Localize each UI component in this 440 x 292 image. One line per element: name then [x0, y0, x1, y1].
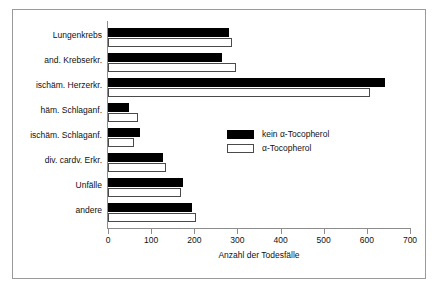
x-tick-600 — [367, 229, 368, 234]
legend-swatch-1 — [227, 144, 254, 153]
bar-4-series-0 — [108, 128, 140, 137]
bar-2-series-0 — [108, 78, 385, 87]
x-tick-300 — [237, 229, 238, 234]
bar-1-series-0 — [108, 53, 222, 62]
x-tick-label-300: 300 — [217, 235, 257, 245]
legend-swatch-0 — [227, 130, 254, 139]
x-axis-line — [107, 228, 411, 229]
x-tick-100 — [151, 229, 152, 234]
bar-1-series-1 — [108, 63, 236, 72]
x-tick-label-400: 400 — [261, 235, 301, 245]
bar-7-series-0 — [108, 203, 192, 212]
bar-2-series-1 — [108, 88, 370, 97]
legend-label-0: kein α-Tocopherol — [262, 129, 329, 139]
category-label-3: häm. Schlaganf. — [18, 105, 102, 115]
category-label-1: and. Krebserkr. — [18, 55, 102, 65]
x-tick-0 — [108, 229, 109, 234]
x-tick-500 — [324, 229, 325, 234]
category-label-4: ischäm. Schlaganf. — [18, 130, 102, 140]
chart-legend: kein α-Tocopherolα-Tocopherol — [227, 128, 347, 156]
x-tick-label-600: 600 — [347, 235, 387, 245]
category-label-0: Lungenkrebs — [18, 30, 102, 40]
category-label-6: Unfälle — [18, 180, 102, 190]
bar-3-series-0 — [108, 103, 129, 112]
bar-0-series-1 — [108, 38, 232, 47]
bar-7-series-1 — [108, 213, 196, 222]
x-tick-700 — [410, 229, 411, 234]
bar-6-series-1 — [108, 188, 181, 197]
x-tick-label-500: 500 — [304, 235, 344, 245]
bar-5-series-0 — [108, 153, 163, 162]
category-label-7: andere — [18, 205, 102, 215]
x-tick-label-0: 0 — [88, 235, 128, 245]
legend-label-1: α-Tocopherol — [262, 143, 311, 153]
legend-row-1: α-Tocopherol — [227, 142, 347, 154]
legend-row-0: kein α-Tocopherol — [227, 128, 347, 140]
bar-3-series-1 — [108, 113, 138, 122]
x-tick-400 — [281, 229, 282, 234]
bar-6-series-0 — [108, 178, 183, 187]
x-axis-title: Anzahl der Todesfälle — [107, 250, 411, 260]
bar-0-series-0 — [108, 28, 229, 37]
bar-4-series-1 — [108, 138, 134, 147]
chart-plot-area: 0100200300400500600700 Anzahl der Todesf… — [0, 0, 440, 292]
x-tick-200 — [194, 229, 195, 234]
x-tick-label-700: 700 — [390, 235, 430, 245]
x-tick-label-200: 200 — [174, 235, 214, 245]
bar-5-series-1 — [108, 163, 166, 172]
category-label-2: ischäm. Herzerkr. — [18, 80, 102, 90]
category-label-5: div. cardv. Erkr. — [18, 155, 102, 165]
x-tick-label-100: 100 — [131, 235, 171, 245]
